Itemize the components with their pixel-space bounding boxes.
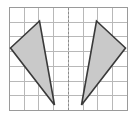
triangle-left bbox=[11, 21, 55, 105]
geometry-figure bbox=[0, 0, 137, 123]
figure-canvas bbox=[0, 0, 137, 123]
triangle-right bbox=[82, 21, 126, 105]
